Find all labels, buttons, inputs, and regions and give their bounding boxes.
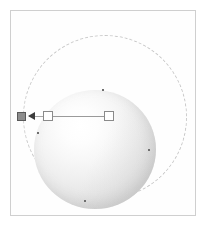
modeling-viewport[interactable] (10, 10, 196, 216)
vertex-dot-left[interactable] (37, 132, 39, 134)
sphere-object[interactable] (34, 90, 156, 209)
sphere-shading-overlay (34, 90, 156, 209)
viewport-canvas[interactable] (11, 11, 195, 215)
vertex-dot-bottom[interactable] (84, 200, 86, 202)
vertex-dot-top[interactable] (102, 89, 104, 91)
screenshot-root (0, 0, 206, 226)
vertex-dot-right[interactable] (148, 149, 150, 151)
